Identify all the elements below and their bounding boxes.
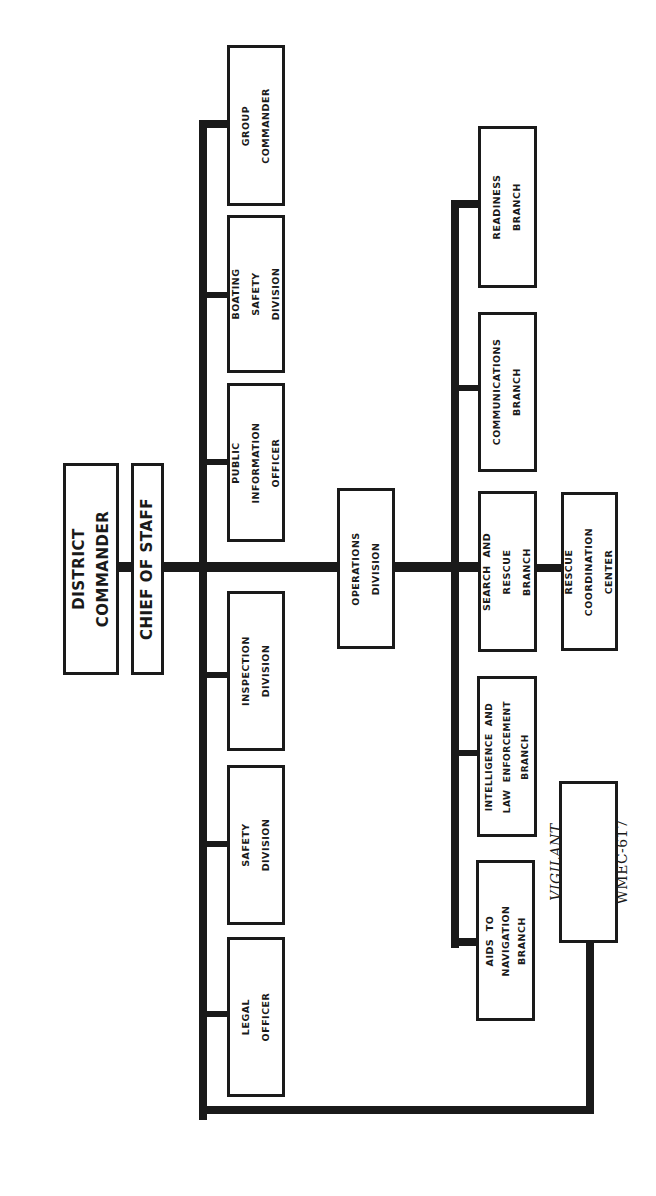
branch-stub-intel <box>451 750 479 756</box>
readiness-branch-box: READINESS BRANCH <box>478 126 537 288</box>
main-trunk-line <box>163 562 337 572</box>
vessel-name: VIGILANT <box>545 819 567 904</box>
safety-division-box: SAFETY DIVISION <box>227 765 285 925</box>
vigilant-vessel-box: VIGILANT WMEC-617 <box>559 781 618 943</box>
branch-stub-communications <box>451 385 479 391</box>
rescue-coordination-center-box: RESCUE COORDINATION CENTER <box>561 492 618 651</box>
intelligence-law-enforcement-branch-label: INTELLIGENCE AND LAW ENFORCEMENT BRANCH <box>480 700 534 812</box>
vigilant-connector-line <box>586 942 594 1114</box>
sar-to-rcc-line <box>536 564 562 572</box>
readiness-branch-label: READINESS BRANCH <box>488 175 528 240</box>
rescue-coordination-center-label: RESCUE COORDINATION CENTER <box>560 527 620 615</box>
communications-branch-box: COMMUNICATIONS BRANCH <box>478 312 537 472</box>
aids-to-navigation-branch-label: AIDS TO NAVIGATION BRANCH <box>482 905 530 976</box>
bottom-return-line <box>199 1106 594 1114</box>
chief-of-staff-box: CHIEF OF STAFF <box>131 463 164 675</box>
staff-stub-group <box>199 120 228 128</box>
vessel-hull-number: WMEC-617 <box>611 819 633 904</box>
vigilant-vessel-label: VIGILANT WMEC-617 <box>501 819 656 904</box>
communications-branch-label: COMMUNICATIONS BRANCH <box>488 339 528 446</box>
staff-bus-line <box>199 120 207 1120</box>
boating-safety-division-box: BOATING SAFETY DIVISION <box>227 215 285 373</box>
district-commander-label: DISTRICT COMMANDER <box>67 511 115 628</box>
ops-to-branches-line <box>394 562 479 572</box>
legal-officer-box: LEGAL OFFICER <box>227 937 285 1097</box>
group-commander-label: GROUP COMMANDER <box>236 88 276 163</box>
chief-of-staff-label: CHIEF OF STAFF <box>136 498 160 640</box>
staff-stub-inspection <box>199 672 228 678</box>
operations-division-box: OPERATIONS DIVISION <box>337 488 395 649</box>
staff-stub-public-info <box>199 459 228 465</box>
dc-to-cos-connector <box>118 562 132 572</box>
inspection-division-box: INSPECTION DIVISION <box>227 591 285 751</box>
district-commander-box: DISTRICT COMMANDER <box>63 463 119 675</box>
search-and-rescue-branch-label: SEARCH AND RESCUE BRANCH <box>478 532 538 610</box>
branch-bus-line <box>451 200 459 948</box>
group-commander-box: GROUP COMMANDER <box>227 45 285 206</box>
inspection-division-label: INSPECTION DIVISION <box>236 636 276 706</box>
public-information-officer-box: PUBLIC INFORMATION OFFICER <box>227 383 285 542</box>
staff-stub-boating <box>199 292 228 298</box>
legal-officer-label: LEGAL OFFICER <box>236 993 276 1042</box>
staff-stub-legal <box>199 1011 228 1017</box>
intelligence-law-enforcement-branch-box: INTELLIGENCE AND LAW ENFORCEMENT BRANCH <box>477 676 537 837</box>
boating-safety-division-label: BOATING SAFETY DIVISION <box>226 268 286 321</box>
operations-division-label: OPERATIONS DIVISION <box>346 532 386 605</box>
branch-stub-readiness <box>451 200 479 208</box>
branch-stub-aids <box>451 938 479 946</box>
public-information-officer-label: PUBLIC INFORMATION OFFICER <box>226 422 286 503</box>
search-and-rescue-branch-box: SEARCH AND RESCUE BRANCH <box>478 491 537 652</box>
staff-stub-safety <box>199 841 228 847</box>
safety-division-label: SAFETY DIVISION <box>236 819 276 872</box>
